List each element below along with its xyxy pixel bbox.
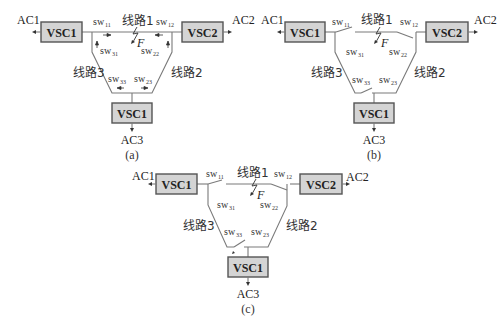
switch-sw33-reclosing [234,240,245,247]
svg-text:VSC1: VSC1 [359,107,389,121]
svg-text:sw: sw [352,74,364,85]
arrow-left-icon [32,30,36,34]
switch-sw33-open [361,88,372,93]
svg-text:F: F [136,36,145,50]
svg-text:线路1: 线路1 [237,165,269,180]
svg-text:sw: sw [251,226,263,237]
svg-text:VSC1: VSC1 [233,261,263,275]
switch-label-sw22: sw22 [389,46,407,58]
fault-icon: F [374,27,389,50]
svg-text:23: 23 [263,232,269,238]
arrow-right-icon [474,30,478,34]
fault-icon: F [250,179,265,202]
switch-label-sw11: sw11 [206,168,224,180]
converter-bottom: VSC1 [354,103,394,123]
svg-text:sw: sw [206,168,218,179]
svg-text:sw: sw [93,16,105,27]
svg-text:VSC2: VSC2 [187,26,217,40]
svg-text:线路3: 线路3 [73,65,105,80]
switch-sw11-open [208,180,222,184]
converter-right: VSC2 [182,22,223,42]
switch-label-sw23: sw23 [251,226,269,238]
svg-text:线路1: 线路1 [361,12,393,27]
switch-sw12-open [397,32,413,38]
svg-text:AC2: AC2 [346,170,369,184]
switch-label-sw11: sw11 [332,16,350,28]
caption-b: (b) [367,148,381,162]
svg-text:22: 22 [153,51,159,57]
switch-sw12-open [271,184,287,190]
switch-label-sw23: sw23 [379,74,397,86]
panel-b: VSC1 VSC2 VSC1 AC1 AC2 AC3 线路1 线路3 线路2 s… [261,12,497,162]
converter-left: VSC1 [156,174,197,194]
svg-text:线路3: 线路3 [311,65,343,80]
switch-label-sw31: sw31 [346,46,364,58]
arrow-down-icon [246,282,250,286]
svg-text:sw: sw [217,199,229,210]
svg-text:VSC2: VSC2 [432,26,462,40]
svg-text:31: 31 [358,52,364,58]
svg-text:AC1: AC1 [132,169,155,183]
converter-left: VSC1 [41,22,82,42]
caption-c: (c) [241,302,254,316]
svg-text:sw: sw [224,226,236,237]
arrow-down-icon [130,128,134,132]
svg-text:AC2: AC2 [474,13,497,27]
svg-text:12: 12 [168,22,174,28]
svg-text:线路2: 线路2 [414,65,446,80]
svg-text:12: 12 [412,22,418,28]
converter-left: VSC1 [285,22,325,42]
switch-label-sw31: sw31 [100,45,118,57]
caption-a: (a) [125,148,138,162]
svg-text:sw: sw [100,45,112,56]
fault-icon: F [131,27,145,50]
svg-text:33: 33 [364,80,370,86]
converter-bottom: VSC1 [228,257,268,277]
switch-label-sw33: sw33 [352,74,370,86]
svg-text:sw: sw [389,46,401,57]
svg-text:AC3: AC3 [121,133,144,147]
svg-text:sw: sw [346,46,358,57]
svg-text:22: 22 [401,52,407,58]
svg-text:sw: sw [108,73,120,84]
switch-label-sw33: sw33 [108,73,126,85]
converter-right: VSC2 [426,22,468,42]
switch-label-sw31: sw31 [217,199,235,211]
svg-text:31: 31 [229,205,235,211]
switch-label-sw11: sw11 [93,16,111,28]
svg-text:sw: sw [379,74,391,85]
svg-text:VSC1: VSC1 [46,26,76,40]
svg-text:AC3: AC3 [237,287,260,301]
svg-text:VSC1: VSC1 [161,178,191,192]
svg-text:sw: sw [332,16,344,27]
svg-text:VSC2: VSC2 [306,178,336,192]
svg-text:11: 11 [218,174,224,180]
svg-text:23: 23 [391,80,397,86]
svg-text:线路3: 线路3 [183,218,215,233]
svg-text:33: 33 [120,79,126,85]
svg-text:F: F [256,188,265,202]
panel-a: VSC1 VSC2 VSC1 AC1 AC2 AC3 线路1 线路3 线路2 s… [17,13,255,162]
arrow-down-icon [372,128,376,132]
svg-text:AC1: AC1 [17,13,40,27]
svg-text:线路2: 线路2 [286,218,318,233]
svg-text:AC2: AC2 [232,13,255,27]
svg-text:VSC1: VSC1 [117,107,147,121]
switch-label-sw12: sw12 [274,168,292,180]
reclose-arrow-icon [232,251,235,254]
svg-text:VSC1: VSC1 [290,26,320,40]
svg-text:22: 22 [272,205,278,211]
svg-text:23: 23 [146,79,152,85]
svg-text:sw: sw [156,16,168,27]
svg-text:11: 11 [105,22,111,28]
switch-label-sw12: sw12 [156,16,174,28]
svg-text:AC3: AC3 [363,133,386,147]
svg-text:11: 11 [344,22,350,28]
svg-text:33: 33 [236,232,242,238]
svg-text:sw: sw [134,73,146,84]
svg-text:线路1: 线路1 [122,13,154,28]
svg-text:sw: sw [274,168,286,179]
svg-text:AC1: AC1 [261,13,284,27]
arrow-left-icon [277,30,281,34]
svg-text:31: 31 [112,51,118,57]
